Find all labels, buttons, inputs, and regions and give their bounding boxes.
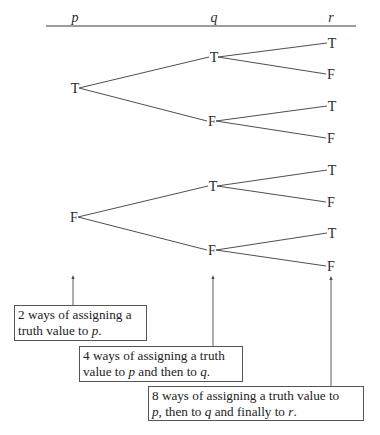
tree-edge <box>216 121 326 138</box>
tree-nodes: TFTFTFTFTFTFTF <box>70 36 337 274</box>
arrowhead-icon <box>211 275 214 279</box>
tree-edge <box>78 217 207 250</box>
note-line1: 8 ways of assigning a truth value to <box>152 388 339 403</box>
note-four-ways: 4 ways of assigning a truth value to p a… <box>79 346 243 382</box>
column-label-p: p <box>71 10 79 25</box>
tree-edge <box>79 88 207 121</box>
tree-edge <box>218 57 326 74</box>
note-line1: 2 ways of assigning a <box>18 307 132 322</box>
tree-node-TF-rT: T <box>328 99 337 114</box>
tree-edge <box>216 233 327 250</box>
tree-node-TT-rT: T <box>328 36 337 51</box>
column-label-r: r <box>328 10 334 25</box>
tree-edge <box>79 57 209 88</box>
tree-node-p-T: T <box>71 81 80 96</box>
note-eight-ways: 8 ways of assigning a truth value to p, … <box>148 386 364 421</box>
tree-edge <box>217 170 327 186</box>
note-line1: 4 ways of assigning a truth <box>83 348 225 363</box>
tree-edge <box>218 43 327 57</box>
tree-node-pT-qT: T <box>210 50 219 65</box>
note-line2-end: . <box>293 404 296 419</box>
tree-edge <box>217 186 326 202</box>
tree-edges <box>78 43 327 266</box>
tree-node-FT-rF: F <box>327 195 335 210</box>
note-line2-mid: . <box>98 323 101 338</box>
note-line2-post: and finally to <box>211 404 288 419</box>
tree-node-pT-qF: F <box>208 114 216 129</box>
note-var: p <box>152 404 159 419</box>
note-two-ways: 2 ways of assigning a truth value to p. <box>14 305 147 341</box>
arrowhead-icon <box>71 275 74 279</box>
column-label-q: q <box>211 10 218 25</box>
tree-node-TT-rF: F <box>327 67 335 82</box>
tree-node-TF-rF: F <box>327 131 335 146</box>
tree-node-FF-rF: F <box>327 259 335 274</box>
note-line2-pre: truth value to <box>18 323 92 338</box>
note-line2-mid: , then to <box>159 404 205 419</box>
tree-edge <box>216 106 327 121</box>
tree-node-pF-qF: F <box>208 243 216 258</box>
tree-node-pF-qT: T <box>209 179 218 194</box>
tree-edge <box>78 186 208 217</box>
tree-node-FF-rT: T <box>328 226 337 241</box>
note-line2-mid: and then to <box>135 364 200 379</box>
tree-node-p-F: F <box>70 210 78 225</box>
note-line2-post: . <box>207 364 210 379</box>
tree-node-FT-rT: T <box>328 163 337 178</box>
note-var: q <box>200 364 207 379</box>
column-header: pqr <box>46 10 356 26</box>
tree-edge <box>216 250 326 266</box>
arrowhead-icon <box>329 276 332 280</box>
note-line2-pre: value to <box>83 364 128 379</box>
